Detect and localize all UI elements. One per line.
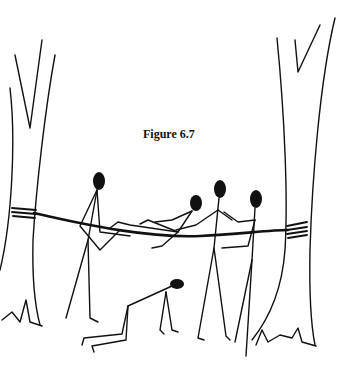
person-standing-center <box>176 180 232 340</box>
person-standing-left <box>66 172 130 322</box>
person-standing-right <box>222 190 262 356</box>
figure-caption: Figure 6.7 <box>143 127 195 142</box>
figure-illustration: Figure 6.7 <box>0 0 354 383</box>
right-tree <box>252 18 335 346</box>
left-tree <box>0 40 55 326</box>
person-reclining-on-rope <box>110 195 202 248</box>
person-crawling-under-rope <box>82 279 184 352</box>
rope-between-trees-drawing <box>0 0 354 383</box>
